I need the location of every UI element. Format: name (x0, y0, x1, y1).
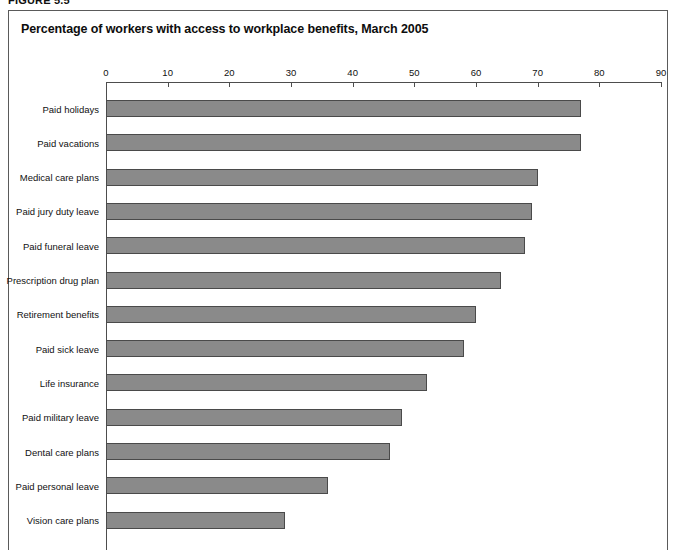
bar-category-label: Paid military leave (22, 412, 99, 423)
bar (106, 169, 538, 186)
x-tick-label: 30 (286, 67, 297, 78)
bar-category-label: Prescription drug plan (7, 275, 99, 286)
bar (106, 306, 476, 323)
x-tick-mark (538, 83, 539, 87)
bar-row: Retirement benefits (106, 306, 662, 323)
bar-row: Paid jury duty leave (106, 203, 662, 220)
bar (106, 134, 581, 151)
bar (106, 272, 501, 289)
bar (106, 477, 328, 494)
x-tick-mark (106, 83, 107, 87)
bar (106, 409, 402, 426)
bar (106, 443, 390, 460)
bar-category-label: Paid holidays (42, 103, 99, 114)
bar (106, 237, 525, 254)
figure-caption: FIGURE 5.5 (8, 0, 70, 6)
x-tick-mark (229, 83, 230, 87)
x-tick-mark (353, 83, 354, 87)
x-tick-mark (414, 83, 415, 87)
x-tick-label: 20 (224, 67, 235, 78)
x-tick-label: 90 (656, 67, 667, 78)
x-axis-line (106, 82, 662, 83)
x-tick-mark (168, 83, 169, 87)
x-tick-label: 80 (594, 67, 605, 78)
bar (106, 374, 427, 391)
x-tick-label: 40 (347, 67, 358, 78)
figure-frame: Percentage of workers with access to wor… (8, 10, 668, 550)
x-tick-label: 70 (532, 67, 543, 78)
x-tick-mark (476, 83, 477, 87)
bar-category-label: Retirement benefits (17, 309, 99, 320)
bar-row: Medical care plans (106, 169, 662, 186)
bar-row: Dental care plans (106, 443, 662, 460)
chart-title: Percentage of workers with access to wor… (21, 22, 428, 36)
bar-category-label: Paid jury duty leave (16, 206, 99, 217)
bar-row: Paid vacations (106, 134, 662, 151)
bar-category-label: Dental care plans (25, 446, 99, 457)
bar-row: Life insurance (106, 374, 662, 391)
bar (106, 100, 581, 117)
bar-row: Paid sick leave (106, 340, 662, 357)
bar-category-label: Medical care plans (20, 172, 99, 183)
x-tick-mark (661, 83, 662, 87)
bar (106, 340, 464, 357)
x-tick-label: 10 (162, 67, 173, 78)
x-tick-mark (291, 83, 292, 87)
bar-row: Vision care plans (106, 512, 662, 529)
bar-category-label: Paid personal leave (16, 480, 99, 491)
bar (106, 203, 532, 220)
bar-row: Prescription drug plan (106, 272, 662, 289)
bar-category-label: Vision care plans (27, 515, 99, 526)
bar-category-label: Life insurance (40, 377, 99, 388)
x-tick-label: 0 (103, 67, 108, 78)
bar-row: Paid holidays (106, 100, 662, 117)
x-tick-label: 50 (409, 67, 420, 78)
bar-row: Paid military leave (106, 409, 662, 426)
bar-category-label: Paid sick leave (36, 343, 99, 354)
plot-area: 0102030405060708090 Paid holidaysPaid va… (106, 82, 662, 550)
bar-category-label: Paid vacations (37, 137, 99, 148)
bar (106, 512, 285, 529)
bar-category-label: Paid funeral leave (23, 240, 99, 251)
bar-row: Paid personal leave (106, 477, 662, 494)
x-tick-label: 60 (471, 67, 482, 78)
bar-row: Paid funeral leave (106, 237, 662, 254)
x-tick-mark (599, 83, 600, 87)
